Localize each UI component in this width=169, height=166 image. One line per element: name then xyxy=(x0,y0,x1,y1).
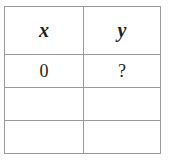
table-row xyxy=(5,121,161,154)
header-x: x xyxy=(5,7,84,55)
header-row: x y xyxy=(5,7,161,55)
cell-y xyxy=(84,88,161,121)
table-row xyxy=(5,88,161,121)
cell-x xyxy=(5,88,84,121)
cell-y: ? xyxy=(84,55,161,88)
cell-x xyxy=(5,121,84,154)
table-row: 0 ? xyxy=(5,55,161,88)
header-y: y xyxy=(84,7,161,55)
cell-x: 0 xyxy=(5,55,84,88)
cell-y xyxy=(84,121,161,154)
value-table: x y 0 ? xyxy=(4,6,161,154)
